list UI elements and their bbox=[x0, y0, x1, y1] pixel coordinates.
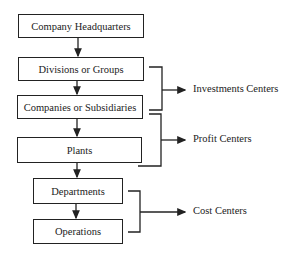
label-cost-centers: Cost Centers bbox=[193, 205, 247, 216]
box-label: Departments bbox=[51, 186, 105, 197]
box-departments: Departments bbox=[33, 178, 123, 204]
label-investment-centers: Investments Centers bbox=[193, 83, 278, 94]
box-company-headquarters: Company Headquarters bbox=[18, 14, 144, 38]
box-companies-or-subsidiaries: Companies or Subsidiaries bbox=[17, 95, 143, 119]
box-label: Plants bbox=[67, 145, 93, 156]
investment-bracket bbox=[149, 67, 162, 110]
box-label: Company Headquarters bbox=[31, 21, 130, 32]
cost-bracket bbox=[128, 191, 140, 232]
box-plants: Plants bbox=[17, 137, 142, 163]
box-divisions-or-groups: Divisions or Groups bbox=[18, 57, 144, 81]
box-label: Companies or Subsidiaries bbox=[24, 102, 137, 113]
box-label: Divisions or Groups bbox=[38, 64, 123, 75]
box-operations: Operations bbox=[33, 219, 123, 244]
connector-lines bbox=[0, 0, 295, 255]
label-profit-centers: Profit Centers bbox=[193, 133, 252, 144]
box-label: Operations bbox=[55, 226, 101, 237]
